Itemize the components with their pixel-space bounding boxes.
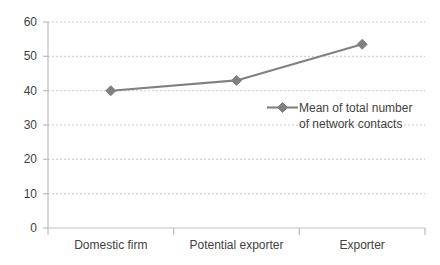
line-chart: 60 50 40 30 20 10 0 Domestic firm Potent… bbox=[0, 0, 440, 265]
x-axis-category-labels: Domestic firm Potential exporter Exporte… bbox=[74, 238, 385, 252]
y-axis-ticks bbox=[43, 22, 48, 228]
y-axis-tick-labels: 60 50 40 30 20 10 0 bbox=[24, 15, 38, 235]
y-tick-label-20: 20 bbox=[24, 152, 38, 166]
data-point-marker-potential-exporter bbox=[232, 75, 242, 85]
y-tick-label-60: 60 bbox=[24, 15, 38, 29]
chart-legend[interactable]: Mean of total number of network contacts bbox=[267, 101, 412, 131]
x-category-label-domestic-firm: Domestic firm bbox=[74, 238, 147, 252]
y-tick-label-40: 40 bbox=[24, 84, 38, 98]
data-point-marker-exporter bbox=[357, 39, 367, 49]
legend-label-line-2: of network contacts bbox=[299, 117, 402, 131]
x-category-label-potential-exporter: Potential exporter bbox=[189, 238, 283, 252]
legend-label-line-1: Mean of total number bbox=[299, 101, 412, 115]
x-category-label-exporter: Exporter bbox=[340, 238, 385, 252]
data-point-marker-domestic-firm bbox=[106, 86, 116, 96]
x-axis-ticks bbox=[48, 228, 425, 235]
y-tick-label-50: 50 bbox=[24, 49, 38, 63]
y-tick-label-10: 10 bbox=[24, 187, 38, 201]
legend-diamond-icon bbox=[278, 103, 288, 113]
y-tick-label-0: 0 bbox=[30, 221, 37, 235]
series-mean-network-contacts bbox=[106, 39, 367, 95]
chart-canvas: 60 50 40 30 20 10 0 Domestic firm Potent… bbox=[0, 0, 440, 265]
y-tick-label-30: 30 bbox=[24, 118, 38, 132]
